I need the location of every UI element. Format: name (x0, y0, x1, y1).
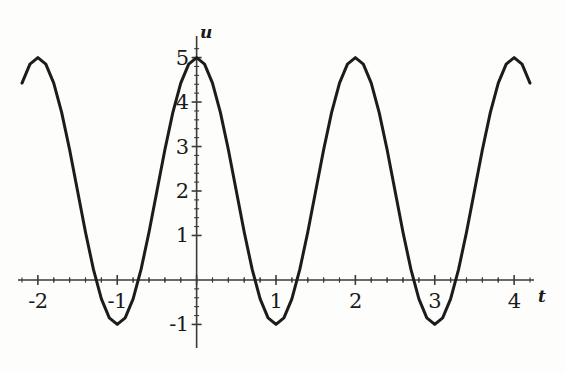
y-axis-label: u (200, 24, 212, 41)
y-tick-label: 5 (0, 47, 189, 68)
y-tick-label: 1 (0, 225, 189, 246)
y-tick-label: 3 (0, 136, 189, 157)
y-tick-label: 4 (0, 92, 189, 113)
y-tick-label: -1 (0, 314, 189, 335)
x-tick-label: -1 (108, 291, 127, 312)
x-tick-label: 1 (270, 291, 283, 312)
x-tick-label: 3 (428, 291, 441, 312)
x-axis-label: t (538, 288, 546, 305)
x-tick-label: 2 (349, 291, 362, 312)
y-tick-label: 2 (0, 181, 189, 202)
x-tick-label: 4 (508, 291, 521, 312)
x-tick-label: -2 (28, 291, 47, 312)
chart-figure: -2-1123412345-1 t u (0, 0, 566, 373)
